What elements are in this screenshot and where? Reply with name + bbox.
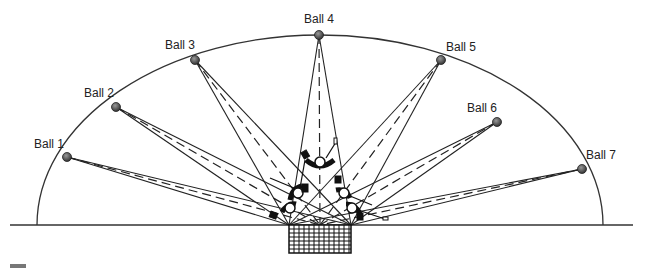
ball-icon [437, 56, 446, 65]
ball-label: Ball 6 [467, 101, 497, 115]
ball-label: Ball 2 [84, 86, 114, 100]
ball-line-left [289, 122, 497, 225]
ball-line-right [351, 122, 497, 225]
ball-icon [578, 165, 587, 174]
ball-icon [315, 31, 324, 40]
drill-diagram: Ball 1Ball 2Ball 3Ball 4Ball 5Ball 6Ball… [0, 0, 647, 268]
players [269, 138, 388, 220]
ball-label: Ball 4 [304, 12, 334, 26]
ball-line-center [319, 35, 320, 225]
ball-line-left [116, 107, 289, 225]
ball-icon [112, 103, 121, 112]
goal-net [289, 225, 351, 253]
ball-label: Ball 1 [34, 137, 64, 151]
ball-line-center [67, 157, 320, 225]
ball-icon [63, 153, 72, 162]
ball-icon [191, 56, 200, 65]
footer-marker [10, 264, 26, 268]
balls: Ball 1Ball 2Ball 3Ball 4Ball 5Ball 6Ball… [34, 12, 616, 174]
retrieval-lines [67, 35, 582, 225]
player-icon [301, 138, 337, 167]
player-icon [335, 176, 372, 205]
ball-label: Ball 7 [586, 148, 616, 162]
ball-label: Ball 5 [446, 40, 476, 54]
ball-line-center [195, 60, 320, 225]
ball-label: Ball 3 [165, 38, 195, 52]
player-icon [269, 203, 296, 219]
ball-icon [493, 118, 502, 127]
